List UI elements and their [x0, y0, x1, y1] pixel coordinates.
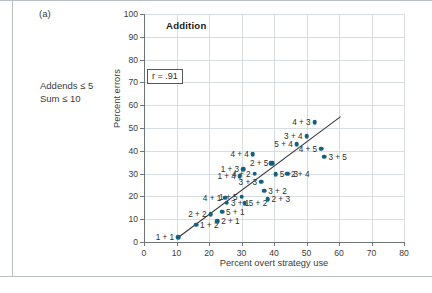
data-point [252, 171, 257, 176]
gridline-horizontal [144, 60, 404, 61]
data-point [262, 188, 267, 193]
x-tick [177, 242, 178, 246]
data-point [194, 223, 199, 228]
data-point-label: 2 + 1 [221, 217, 239, 226]
panel-letter: (a) [39, 8, 51, 19]
data-point [304, 134, 309, 139]
figure-bottom-rule [0, 276, 432, 277]
data-point-label: 5 + 1 [226, 207, 244, 216]
x-tick [307, 242, 308, 246]
x-tick-label: 50 [302, 248, 312, 258]
figure-left-rule [12, 0, 13, 277]
x-tick [404, 242, 405, 246]
y-tick [140, 196, 144, 197]
data-point [176, 235, 181, 240]
y-tick [140, 14, 144, 15]
x-tick-label: 70 [367, 248, 377, 258]
y-tick [140, 82, 144, 83]
data-point [285, 171, 290, 176]
data-point-label: 3 + 4 [284, 131, 302, 140]
data-point [220, 209, 225, 214]
scatter-plot-area: 010203040506070800102030405060708090100 … [144, 14, 404, 242]
y-tick-label: 100 [116, 9, 138, 19]
correlation-annotation: r = .91 [147, 69, 183, 84]
y-axis-line [144, 14, 145, 243]
chart-title: Addition [166, 20, 207, 31]
x-tick-label: 0 [142, 248, 147, 258]
data-point [312, 120, 317, 125]
data-point-label: 4 + 4 [230, 150, 248, 159]
x-axis-title: Percent overt strategy use [220, 258, 329, 268]
data-point [265, 197, 270, 202]
gridline-horizontal [144, 37, 404, 38]
gridline-vertical [404, 14, 405, 242]
y-tick-label: 70 [116, 77, 138, 87]
x-tick [274, 242, 275, 246]
figure-panel: (a) Addends ≤ 5 Sum ≤ 10 Percent errors … [0, 0, 432, 293]
data-point [215, 219, 220, 224]
gridline-horizontal [144, 128, 404, 129]
data-point-label: 4 + 3 [292, 118, 310, 127]
data-point [242, 201, 247, 206]
gridline-horizontal [144, 151, 404, 152]
data-point-label: 1 + 5 [219, 192, 237, 201]
x-tick-label: 40 [269, 248, 279, 258]
x-tick-label: 60 [334, 248, 344, 258]
y-tick [140, 105, 144, 106]
y-tick [140, 60, 144, 61]
x-tick [372, 242, 373, 246]
data-point [319, 146, 324, 151]
x-tick [339, 242, 340, 246]
x-tick-label: 30 [237, 248, 247, 258]
y-tick-label: 40 [116, 146, 138, 156]
y-tick [140, 151, 144, 152]
data-point-label: 2 + 5 [250, 159, 268, 168]
condition-note: Addends ≤ 5 Sum ≤ 10 [40, 80, 93, 105]
y-tick [140, 219, 144, 220]
y-tick-label: 90 [116, 32, 138, 42]
gridline-horizontal [144, 105, 404, 106]
data-point [239, 195, 244, 200]
data-point-label: 1 + 1 [156, 233, 174, 242]
y-tick [140, 37, 144, 38]
data-point [273, 172, 278, 177]
data-point-label: 4 + 5 [299, 144, 317, 153]
y-tick-label: 60 [116, 100, 138, 110]
x-tick [144, 242, 145, 246]
y-tick-label: 80 [116, 55, 138, 65]
data-point [268, 161, 273, 166]
data-point [322, 154, 327, 159]
data-point [259, 179, 264, 184]
y-tick [140, 174, 144, 175]
x-tick-label: 10 [172, 248, 182, 258]
y-tick [140, 128, 144, 129]
x-tick [209, 242, 210, 246]
data-point [208, 212, 213, 217]
figure-top-rule [0, 0, 432, 1]
data-point-label: 2 + 4 [291, 169, 309, 178]
x-tick-label: 20 [204, 248, 214, 258]
data-point-label: 2 + 2 [188, 210, 206, 219]
y-tick [140, 242, 144, 243]
data-point-label: 3 + 5 [328, 152, 346, 161]
y-tick-label: 10 [116, 214, 138, 224]
gridline-horizontal [144, 219, 404, 220]
data-point-label: 2 + 3 [272, 195, 290, 204]
gridline-horizontal [144, 82, 404, 83]
y-tick-label: 50 [116, 123, 138, 133]
y-tick-label: 0 [116, 237, 138, 247]
data-point [251, 152, 256, 157]
y-tick-label: 30 [116, 169, 138, 179]
data-point-label: 3 + 3 [239, 177, 257, 186]
gridline-horizontal [144, 14, 404, 15]
data-point-label: 5 + 4 [274, 139, 292, 148]
x-tick-label: 80 [399, 248, 409, 258]
y-tick-label: 20 [116, 191, 138, 201]
x-tick [242, 242, 243, 246]
